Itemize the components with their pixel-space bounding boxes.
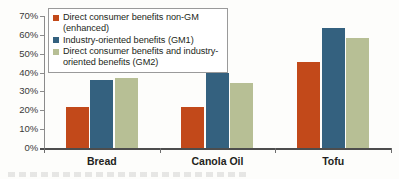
- legend-item: Direct consumer benefits non-GM (enhance…: [53, 12, 222, 34]
- y-axis-tick-label: 70%: [2, 11, 38, 21]
- y-axis-tick-label: 0%: [2, 143, 38, 153]
- legend-item: Direct consumer benefits and industry- o…: [53, 46, 222, 68]
- x-axis-category-label: Tofu: [275, 155, 391, 167]
- bar: [115, 78, 138, 148]
- legend: Direct consumer benefits non-GM (enhance…: [48, 8, 228, 73]
- bar: [297, 62, 320, 148]
- legend-label: Industry-oriented benefits (GM1): [63, 35, 194, 46]
- y-axis-tick-label: 10%: [2, 124, 38, 134]
- caption-strip: [8, 172, 248, 177]
- y-axis-tick-label: 50%: [2, 49, 38, 59]
- x-axis-category-label: Canola Oil: [160, 155, 276, 167]
- bar: [181, 107, 204, 148]
- bar-chart: 70%60%50%40%30%20%10%0% BreadCanola OilT…: [0, 0, 399, 179]
- legend-label: Direct consumer benefits non-GM (enhance…: [63, 12, 222, 34]
- bar: [346, 38, 369, 148]
- legend-swatch-icon: [53, 15, 59, 21]
- bar: [90, 80, 113, 148]
- legend-swatch-icon: [53, 49, 59, 55]
- bar: [206, 73, 229, 148]
- x-axis-category-label: Bread: [44, 155, 160, 167]
- x-axis-tick: [44, 148, 45, 153]
- bar: [66, 107, 89, 148]
- y-axis-tick-label: 30%: [2, 86, 38, 96]
- x-axis-tick: [160, 148, 161, 153]
- x-axis-tick: [391, 148, 392, 153]
- y-axis-tick-label: 40%: [2, 68, 38, 78]
- x-axis-line: [40, 148, 391, 150]
- y-axis-tick-label: 60%: [2, 30, 38, 40]
- legend-swatch-icon: [53, 37, 59, 43]
- bar: [322, 28, 345, 148]
- legend-item: Industry-oriented benefits (GM1): [53, 35, 222, 46]
- bar: [230, 83, 253, 148]
- bar-group: [275, 16, 391, 148]
- legend-label: Direct consumer benefits and industry- o…: [63, 46, 218, 68]
- y-axis-tick-label: 20%: [2, 105, 38, 115]
- x-axis-tick: [275, 148, 276, 153]
